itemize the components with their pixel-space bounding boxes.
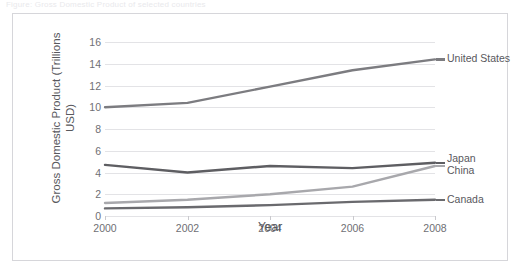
- legend-label-united-states: United States: [447, 53, 510, 64]
- legend-label-china: China: [447, 165, 474, 176]
- x-axis-title: Year: [105, 220, 435, 234]
- y-tick-label: 16: [61, 37, 101, 47]
- legend-swatch-china: [436, 165, 445, 167]
- legend-label-canada: Canada: [447, 194, 484, 205]
- y-tick-label: 0: [61, 211, 101, 221]
- legend-swatch-canada: [436, 199, 445, 201]
- y-tick-label: 10: [61, 102, 101, 112]
- chart-screenshot: Figure: Gross Domestic Product of select…: [0, 0, 521, 274]
- legend-swatch-united-states: [436, 58, 445, 60]
- x-axis-ticks: 20002002200420062008: [105, 42, 435, 216]
- y-axis-ticks: 0246810121416: [57, 42, 101, 216]
- top-caption: Figure: Gross Domestic Product of select…: [6, 0, 336, 10]
- chart-frame: Gross Domestic Product (Trillions USD) 0…: [12, 13, 508, 261]
- y-tick-label: 2: [61, 189, 101, 199]
- y-tick-label: 6: [61, 146, 101, 156]
- y-tick-label: 14: [61, 59, 101, 69]
- y-tick-label: 12: [61, 81, 101, 91]
- legend-label-japan: Japan: [447, 153, 476, 164]
- y-tick-label: 8: [61, 124, 101, 134]
- x-tick-mark: [435, 216, 436, 220]
- y-tick-label: 4: [61, 168, 101, 178]
- legend-swatch-japan: [436, 162, 445, 164]
